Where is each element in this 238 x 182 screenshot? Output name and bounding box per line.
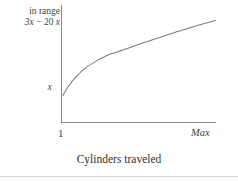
y-axis-label: in range 3x − 20 x — [8, 6, 60, 27]
x-axis-tick-label-min: 1 — [58, 127, 64, 139]
y-axis-label-line2: 3x − 20 x — [8, 17, 60, 28]
figure-container: in range 3x − 20 x x 1 Max Cylinders tra… — [0, 0, 238, 182]
y-axis-label-term-var: x — [56, 17, 60, 27]
y-axis-label-minus: − — [36, 17, 41, 27]
y-axis-label-line1: in range — [8, 6, 60, 17]
x-axis-tick-label-max: Max — [191, 127, 210, 139]
y-axis-tick-label: x — [30, 81, 52, 92]
y-axis-label-term-2: 20 — [44, 17, 54, 27]
y-axis-label-term-1: 3x — [25, 17, 34, 27]
seek-time-curve — [63, 21, 216, 96]
figure-caption: Cylinders traveled — [0, 153, 238, 166]
